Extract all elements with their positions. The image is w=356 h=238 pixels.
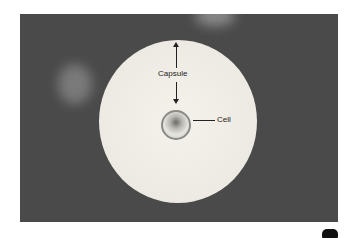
background-smudge xyxy=(58,64,92,104)
corner-badge xyxy=(322,229,338,238)
arrowhead-up-icon xyxy=(173,42,179,47)
cell-leader-line xyxy=(193,120,215,121)
cell-label: Cell xyxy=(217,115,231,124)
arrowhead-down-icon xyxy=(173,99,179,104)
capsule-arrow-up xyxy=(176,45,177,68)
background-smudge xyxy=(195,14,235,26)
cell xyxy=(161,110,191,140)
micrograph-photo xyxy=(20,14,338,222)
capsule-label: Capsule xyxy=(158,69,187,78)
